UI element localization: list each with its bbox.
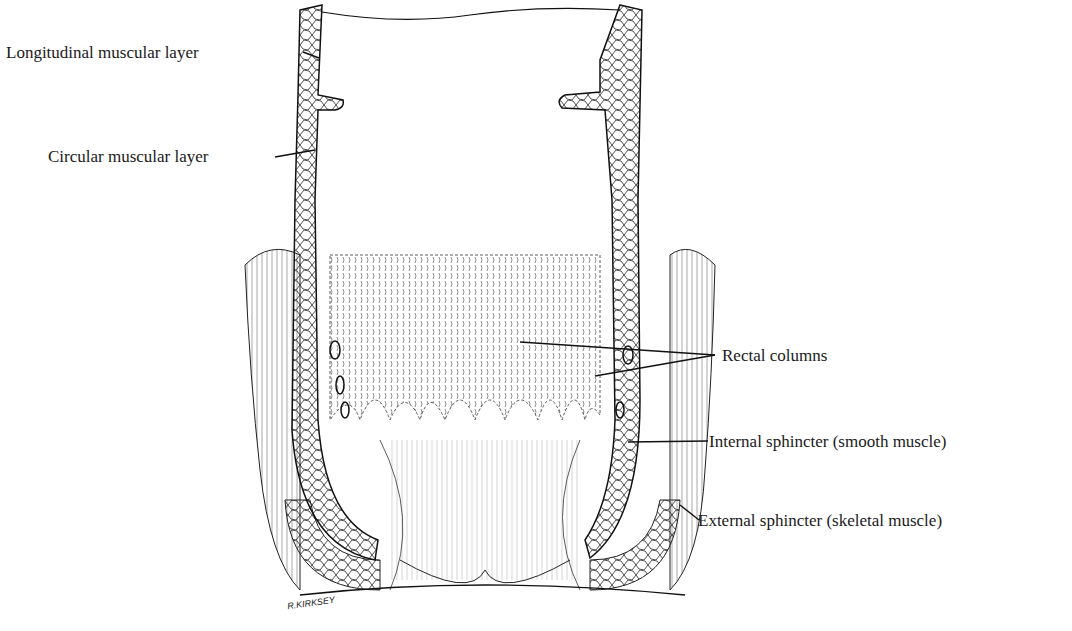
label-internal-sphincter: Internal sphincter (smooth muscle) bbox=[709, 433, 946, 450]
label-rectal-columns: Rectal columns bbox=[722, 347, 827, 364]
anatomy-drawing bbox=[0, 0, 1072, 631]
label-circular-muscular-layer: Circular muscular layer bbox=[48, 148, 209, 165]
label-longitudinal-muscular-layer: Longitudinal muscular layer bbox=[6, 44, 199, 61]
label-external-sphincter: External sphincter (skeletal muscle) bbox=[698, 512, 942, 529]
